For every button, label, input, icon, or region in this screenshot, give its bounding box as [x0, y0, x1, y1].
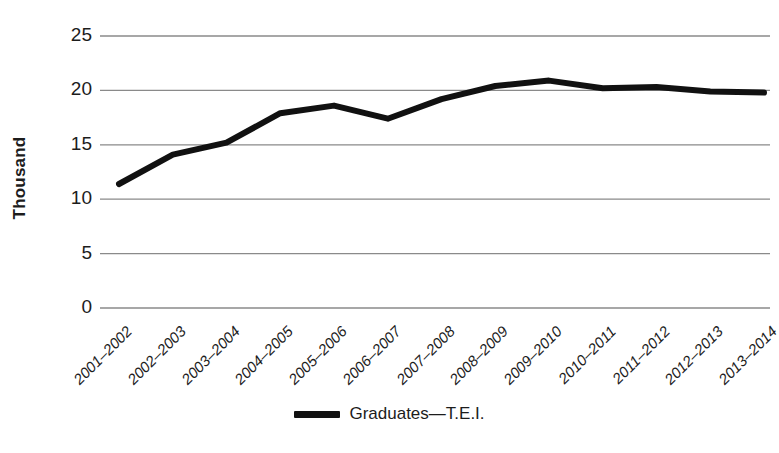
- series-line-graduates-tei: [119, 81, 764, 184]
- y-tick-label-10: 10: [50, 188, 92, 207]
- chart-legend: Graduates—T.E.I.: [0, 404, 779, 424]
- y-axis-title: Thousand: [10, 118, 30, 238]
- plot-area: [100, 0, 770, 453]
- gridlines: [100, 36, 770, 308]
- y-tick-label-25: 25: [50, 25, 92, 44]
- legend-swatch-graduates-tei: [294, 411, 340, 418]
- legend-label-graduates-tei: Graduates—T.E.I.: [349, 404, 484, 424]
- y-tick-label-5: 5: [50, 243, 92, 262]
- y-tick-label-20: 20: [50, 79, 92, 98]
- y-tick-label-0: 0: [50, 297, 92, 316]
- y-tick-label-15: 15: [50, 134, 92, 153]
- plot-svg: [100, 0, 770, 453]
- line-chart: Thousand 0510152025 2001–20022002–200320…: [0, 0, 779, 453]
- y-axis-tick-labels: 0510152025: [40, 0, 92, 453]
